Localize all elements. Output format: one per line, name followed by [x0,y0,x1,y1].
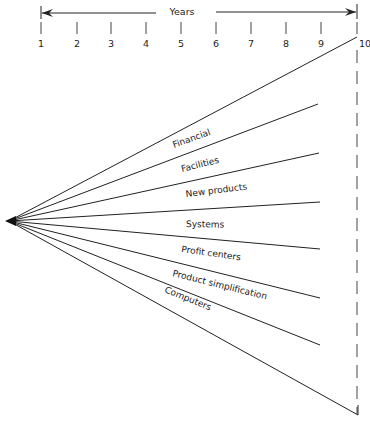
fan-lines [9,37,358,415]
tick-marks [41,22,357,34]
tick-label: 3 [108,38,114,49]
tick-label: 8 [283,38,289,49]
branch-label-profit-centers: Profit centers [181,244,242,262]
fan-line [9,221,320,298]
tick-label: 4 [143,38,149,49]
fan-line [9,37,357,221]
fan-line [9,221,320,345]
tick-label: 1 [38,38,44,49]
fan-line [9,153,319,221]
fan-line [9,221,320,249]
timeline-axis: Years 1 2 3 4 5 6 7 8 9 10 [38,4,370,49]
tick-label: 5 [178,38,184,49]
timeline-title: Years [168,6,194,17]
origin-point-icon [5,216,16,226]
tick-label: 6 [213,38,219,49]
planning-horizon-diagram: Years 1 2 3 4 5 6 7 8 9 10 [0,0,370,422]
fan-line [9,202,320,221]
branch-label-systems: Systems [186,219,225,230]
fan-line [9,104,318,221]
branch-label-facilities: Facilities [180,155,220,174]
branch-label-new-products: New products [185,181,248,198]
tick-label: 7 [248,38,254,49]
tick-label: 9 [318,38,324,49]
tick-label: 2 [74,38,80,49]
branch-label-computers: Computers [163,285,213,313]
tick-label: 10 [359,38,370,49]
